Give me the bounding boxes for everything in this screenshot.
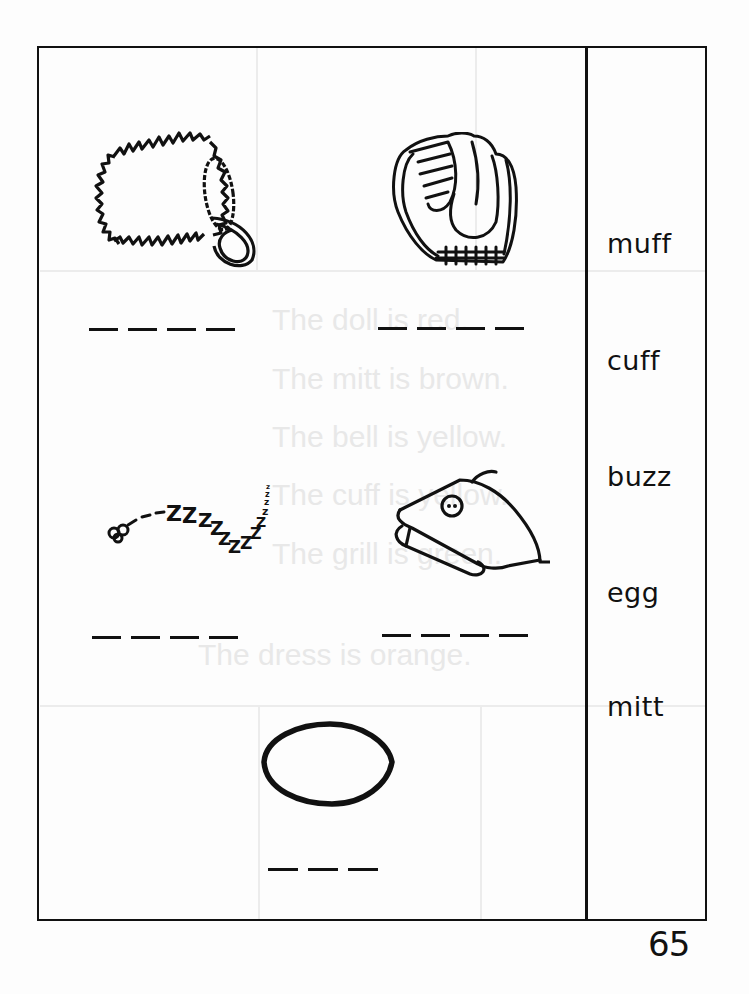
muff-picture: [92, 124, 277, 269]
answer-blank-mitt[interactable]: [378, 327, 524, 330]
answer-blank-muff[interactable]: [89, 328, 235, 331]
letter-blank[interactable]: [495, 327, 524, 330]
cuff-picture: [390, 466, 550, 578]
letter-blank[interactable]: [348, 868, 378, 871]
word-bank-divider: [585, 46, 588, 921]
svg-text:z: z: [266, 483, 270, 491]
letter-blank[interactable]: [378, 327, 407, 330]
letter-blank[interactable]: [456, 327, 485, 330]
letter-blank[interactable]: [170, 636, 199, 639]
svg-text:Z: Z: [182, 504, 197, 528]
letter-blank[interactable]: [382, 634, 411, 637]
egg-picture: [258, 720, 398, 810]
letter-blank[interactable]: [167, 328, 196, 331]
word-bank-item: cuff: [607, 345, 660, 376]
word-bank-item: mitt: [607, 691, 664, 722]
word-bank-item: buzz: [607, 461, 672, 492]
mitt-picture: [388, 132, 528, 270]
letter-blank[interactable]: [89, 328, 118, 331]
svg-text:Z: Z: [166, 501, 182, 526]
letter-blank[interactable]: [128, 328, 157, 331]
letter-blank[interactable]: [460, 634, 489, 637]
letter-blank[interactable]: [92, 636, 121, 639]
letter-blank[interactable]: [268, 868, 298, 871]
svg-text:z: z: [265, 490, 270, 499]
letter-blank[interactable]: [417, 327, 446, 330]
letter-blank[interactable]: [421, 634, 450, 637]
letter-blank[interactable]: [308, 868, 338, 871]
answer-blank-cuff[interactable]: [382, 634, 528, 637]
word-bank-item: muff: [607, 228, 671, 259]
buzz-picture: Z Z Z Z Z Z Z Z Z z z z z: [104, 475, 284, 575]
page-number: 65: [648, 924, 689, 964]
word-bank-item: egg: [607, 577, 659, 608]
letter-blank[interactable]: [206, 328, 235, 331]
letter-blank[interactable]: [499, 634, 528, 637]
letter-blank[interactable]: [131, 636, 160, 639]
letter-blank[interactable]: [209, 636, 238, 639]
answer-blank-buzz[interactable]: [92, 636, 238, 639]
answer-blank-egg[interactable]: [268, 868, 378, 871]
